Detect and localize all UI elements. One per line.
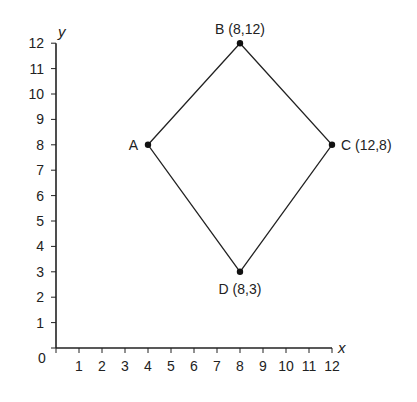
x-tick-label: 1: [75, 358, 83, 374]
x-tick-label: 5: [167, 358, 175, 374]
point-label-b: B (8,12): [215, 21, 265, 37]
ticks: 123456789101112123456789101112: [28, 35, 340, 374]
x-tick-label: 2: [98, 358, 106, 374]
point-label-c: C (12,8): [341, 137, 392, 153]
y-tick-label: 12: [28, 35, 44, 51]
x-tick-label: 3: [121, 358, 129, 374]
y-tick-label: 10: [28, 86, 44, 102]
x-tick-label: 4: [144, 358, 152, 374]
point-a: [145, 142, 151, 148]
y-tick-label: 2: [36, 289, 44, 305]
y-axis-label: y: [57, 23, 67, 40]
x-tick-label: 7: [213, 358, 221, 374]
y-tick-label: 1: [36, 315, 44, 331]
y-tick-label: 11: [29, 61, 44, 77]
kite-shape: [148, 43, 332, 272]
points: AB (8,12)C (12,8)D (8,3): [129, 21, 392, 297]
x-tick-label: 12: [324, 358, 340, 374]
coordinate-plot: xy0 123456789101112123456789101112 AB (8…: [0, 0, 417, 402]
x-axis-label: x: [337, 339, 346, 356]
origin-label: 0: [38, 350, 46, 366]
kite-outline: [148, 43, 332, 272]
x-tick-label: 8: [236, 358, 244, 374]
point-label-a: A: [129, 137, 139, 153]
x-tick-label: 11: [302, 358, 317, 374]
point-b: [237, 40, 243, 46]
y-tick-label: 8: [36, 137, 44, 153]
y-tick-label: 6: [36, 188, 44, 204]
y-tick-label: 5: [36, 213, 44, 229]
y-tick-label: 7: [36, 162, 44, 178]
y-tick-label: 4: [36, 238, 44, 254]
x-tick-label: 9: [259, 358, 267, 374]
axes: xy0: [38, 23, 346, 366]
y-tick-label: 3: [36, 264, 44, 280]
point-c: [329, 142, 335, 148]
y-tick-label: 9: [36, 111, 44, 127]
point-label-d: D (8,3): [219, 281, 262, 297]
x-tick-label: 10: [278, 358, 294, 374]
point-d: [237, 269, 243, 275]
x-tick-label: 6: [190, 358, 198, 374]
